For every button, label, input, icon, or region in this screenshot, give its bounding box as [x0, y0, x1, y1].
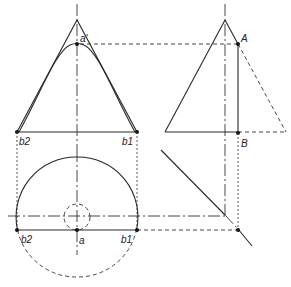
side-cone-right-edge-upper	[225, 20, 238, 44]
label-B: B	[241, 138, 248, 149]
label-b2-bottom: b2	[21, 234, 33, 245]
front-view: a' b2 b1	[15, 4, 238, 230]
miter-line-middle	[225, 215, 238, 229]
construction-diagram: a' b2 b1 A B	[0, 0, 291, 287]
point-b1-bottom	[135, 228, 139, 232]
point-b2-bottom	[15, 228, 19, 232]
plan-view: b2 a b1	[15, 150, 139, 277]
label-a-prime: a'	[80, 33, 89, 44]
miter-line-lower	[238, 229, 252, 246]
label-a-bottom: a	[79, 235, 85, 246]
label-b1-top: b1	[122, 136, 133, 147]
label-b2-top: b2	[19, 136, 31, 147]
side-view: A B	[165, 4, 286, 230]
miter-line-upper	[161, 150, 225, 215]
label-b1-bottom: b1	[121, 234, 132, 245]
point-a-bottom	[75, 228, 79, 232]
point-a-prime	[75, 42, 79, 46]
side-cone-left-edge	[165, 20, 225, 132]
label-A: A	[240, 33, 248, 44]
miter-construction	[8, 150, 252, 246]
point-A	[236, 42, 240, 46]
side-cone-right-edge-removed	[238, 44, 286, 132]
